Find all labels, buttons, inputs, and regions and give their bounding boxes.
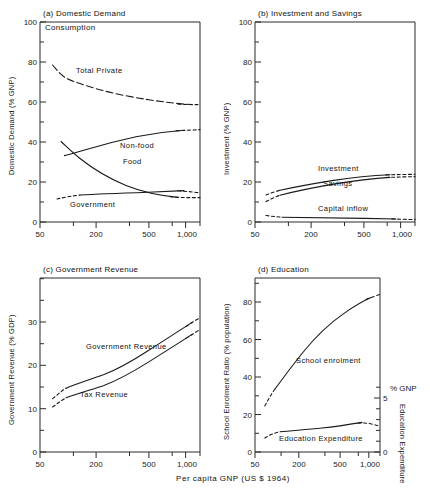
panel-b-xtick-1000: 1,000 bbox=[392, 230, 413, 239]
panel-b-xtick-50: 50 bbox=[251, 230, 260, 239]
panel-c-title: (c) Government Revenue bbox=[43, 265, 139, 274]
panel-c-x-ticks bbox=[40, 452, 200, 458]
panel-d-ytick-80: 80 bbox=[243, 298, 252, 307]
panel-a-domestic-demand: (a) Domestic Demand Consumption 100 bbox=[7, 9, 200, 239]
panel-b-ytick-0: 0 bbox=[248, 218, 253, 227]
panel-c-ytick-20: 20 bbox=[28, 361, 37, 370]
panel-b-label-savings: Savings bbox=[323, 179, 352, 188]
panel-a-y-axis-title: Domestic Demand (% GNP) bbox=[7, 76, 16, 175]
panel-c-series-tax-revenue-lead bbox=[53, 398, 66, 407]
panel-c-label-government-revenue: Government Revenue bbox=[86, 342, 167, 351]
panel-b-ytick-40: 40 bbox=[243, 138, 252, 147]
panel-d-series-education-expenditure bbox=[280, 422, 362, 431]
panel-a-ytick-0: 0 bbox=[33, 218, 38, 227]
panel-d-x-ticks bbox=[255, 452, 380, 458]
panel-b-series-capital-inflow-lead bbox=[266, 215, 282, 217]
panel-d-ytick-20: 20 bbox=[243, 411, 252, 420]
panel-c-label-tax-revenue: Tax Revenue bbox=[80, 390, 128, 399]
panel-d-education: (d) Education 80 60 40 20 0 bbox=[222, 265, 417, 484]
panel-c-series-government-revenue-extension bbox=[186, 318, 200, 327]
panel-c-xtick-200: 200 bbox=[89, 460, 103, 469]
panel-d-y-axis-title-left: School Enrolment Ratio (% population) bbox=[222, 303, 231, 440]
panel-a-series-government bbox=[80, 191, 184, 195]
panel-c-ytick-10: 10 bbox=[28, 405, 37, 414]
panel-c-ytick-0: 0 bbox=[33, 448, 38, 457]
panel-d-ytick-0: 0 bbox=[248, 448, 253, 457]
panel-c-ytick-30: 30 bbox=[28, 318, 37, 327]
panel-b-series-savings-lead bbox=[266, 195, 280, 201]
panel-b-xtick-200: 200 bbox=[304, 230, 318, 239]
panel-a-label-total-private: Total Private bbox=[76, 66, 122, 75]
panel-d-y-ticks-right bbox=[374, 387, 380, 452]
panel-d-series-school-enrolment-lead bbox=[265, 389, 275, 406]
panel-d-frame bbox=[255, 278, 380, 452]
panel-a-title: (a) Domestic Demand bbox=[43, 9, 126, 18]
panel-b-ytick-20: 20 bbox=[243, 178, 252, 187]
panel-c-xtick-1000: 1,000 bbox=[177, 460, 198, 469]
panel-a-ytick-20: 20 bbox=[28, 178, 37, 187]
panel-d-ytick-right-5: 5 bbox=[383, 394, 388, 403]
panel-c-series-government-revenue bbox=[66, 322, 192, 388]
x-axis-title: Per capita GNP (US $ 1964) bbox=[176, 474, 290, 483]
panel-d-series-education-expenditure-extension bbox=[358, 423, 380, 426]
panel-a-annotation-consumption: Consumption bbox=[45, 23, 95, 32]
panel-b-ytick-60: 60 bbox=[243, 98, 252, 107]
panel-b-xtick-500: 500 bbox=[357, 230, 371, 239]
four-panel-chart-svg: (a) Domestic Demand Consumption 100 bbox=[0, 0, 430, 488]
panel-b-y-axis-title: Investment (% GNP) bbox=[222, 102, 231, 175]
panel-d-title: (d) Education bbox=[258, 265, 309, 274]
panel-a-y-ticks bbox=[40, 22, 46, 222]
panel-c-y-axis-title: Government Revenue (% GDP) bbox=[7, 314, 16, 425]
panel-a-frame bbox=[40, 22, 200, 222]
panel-d-y-ticks-left bbox=[255, 283, 261, 452]
panel-a-xtick-500: 500 bbox=[142, 230, 156, 239]
panel-c-series-government-revenue-lead bbox=[53, 388, 66, 399]
panel-d-xtick-200: 200 bbox=[292, 460, 306, 469]
panel-d-series-school-enrolment bbox=[275, 298, 371, 389]
panel-b-series-capital-inflow bbox=[282, 217, 396, 219]
panel-a-xtick-50: 50 bbox=[36, 230, 45, 239]
panel-b-label-capital-inflow: Capital inflow bbox=[318, 204, 368, 213]
panel-d-xtick-50: 50 bbox=[251, 460, 260, 469]
panel-a-label-food: Food bbox=[123, 157, 142, 166]
panel-d-right-axis-unit: % GNP bbox=[390, 384, 417, 393]
panel-a-series-government-extension bbox=[178, 191, 200, 193]
panel-b-y-ticks bbox=[255, 22, 261, 222]
panel-d-label-school-enrolment: School enrolment bbox=[296, 356, 361, 365]
panel-b-ytick-100: 100 bbox=[239, 18, 253, 27]
panel-a-ytick-80: 80 bbox=[28, 58, 37, 67]
panel-b-frame bbox=[255, 22, 415, 222]
panel-d-series-school-enrolment-extension bbox=[366, 294, 380, 299]
panel-a-x-ticks bbox=[40, 222, 200, 228]
panel-c-xtick-50: 50 bbox=[36, 460, 45, 469]
panel-a-label-government: Government bbox=[70, 200, 116, 209]
panel-a-ytick-40: 40 bbox=[28, 138, 37, 147]
panel-b-x-ticks bbox=[255, 222, 415, 228]
panel-c-y-ticks bbox=[40, 279, 46, 452]
panel-d-ytick-60: 60 bbox=[243, 336, 252, 345]
panel-a-series-total-private-extension bbox=[178, 104, 200, 105]
panel-c-government-revenue: (c) Government Revenue 30 20 10 0 bbox=[7, 265, 200, 469]
panel-b-ytick-80: 80 bbox=[243, 58, 252, 67]
panel-a-ytick-100: 100 bbox=[24, 18, 38, 27]
figure-root: (a) Domestic Demand Consumption 100 bbox=[0, 0, 430, 488]
panel-d-ytick-40: 40 bbox=[243, 373, 252, 382]
panel-d-xtick-1000: 1,000 bbox=[360, 460, 381, 469]
panel-c-frame bbox=[40, 278, 200, 452]
panel-d-label-education-expenditure: Education Expenditure bbox=[279, 434, 363, 443]
panel-b-investment-savings: (b) Investment and Savings 100 80 60 4 bbox=[222, 9, 415, 239]
panel-d-ytick-right-0: 0 bbox=[383, 448, 388, 457]
panel-c-series-tax-revenue-extension bbox=[186, 330, 200, 339]
panel-d-series-education-expenditure-lead bbox=[265, 432, 280, 438]
panel-b-title: (b) Investment and Savings bbox=[258, 9, 362, 18]
panel-b-series-investment-lead bbox=[266, 190, 280, 195]
panel-a-ytick-60: 60 bbox=[28, 98, 37, 107]
panel-a-series-government-lead bbox=[57, 195, 80, 199]
panel-a-label-non-food: Non-food bbox=[120, 141, 154, 150]
panel-a-xtick-1000: 1,000 bbox=[177, 230, 198, 239]
panel-b-label-investment: Investment bbox=[318, 164, 359, 173]
panel-a-xtick-200: 200 bbox=[89, 230, 103, 239]
panel-d-y-axis-title-right: Education Expenditure bbox=[398, 404, 407, 484]
panel-c-xtick-500: 500 bbox=[142, 460, 156, 469]
panel-d-xtick-500: 500 bbox=[333, 460, 347, 469]
